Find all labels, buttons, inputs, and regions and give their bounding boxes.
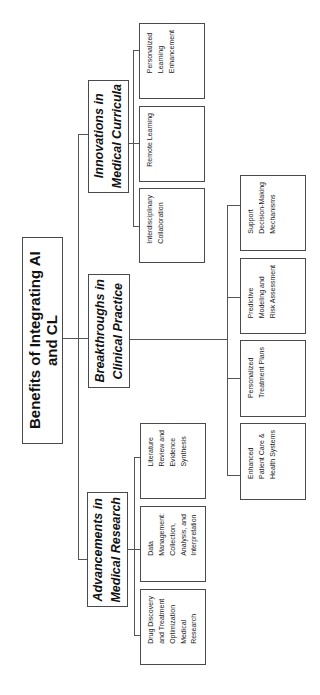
leaf-label: Interdisciplinary Collaboration xyxy=(145,189,167,244)
leaf-label: Personalized Learning Enhancement xyxy=(145,24,178,73)
leaf-predictive-modeling: Predictive Modeling and Risk Assessment xyxy=(240,258,306,334)
branch-label: Breakthroughs in Clinical Practice xyxy=(91,279,127,383)
clinical-stub xyxy=(129,339,227,340)
innovations-connector xyxy=(78,134,88,135)
child-stub xyxy=(227,205,240,206)
advancements-stub xyxy=(127,549,134,550)
leaf-label: Personalized Treatment Plans xyxy=(246,341,268,398)
leaf-data-management: Data Management: Collection, Analysis, a… xyxy=(140,506,206,582)
branch-advancements: Advancements in Medical Research xyxy=(87,492,128,607)
leaf-label: Literature Review and Evidence Synthesis xyxy=(146,424,189,467)
leaf-label: Drug Discovery and Treatment Optimizatio… xyxy=(146,590,200,644)
child-stub xyxy=(227,297,240,298)
branch-label: Innovations in Medical Curricula xyxy=(90,84,126,188)
leaf-literature-review: Literature Review and Evidence Synthesis xyxy=(140,423,206,499)
leaf-remote-learning: Remote Learning xyxy=(139,106,205,182)
innovations-children-connector xyxy=(133,50,134,227)
leaf-personalized-learning: Personalized Learning Enhancement xyxy=(139,23,205,99)
root-connector xyxy=(62,338,88,339)
clinical-children-connector xyxy=(227,205,228,476)
branch-label: Advancements in Medical Research xyxy=(89,497,125,603)
leaf-label: Predictive Modeling and Risk Assessment xyxy=(246,259,279,318)
child-stub xyxy=(227,475,240,476)
child-stub xyxy=(227,378,240,379)
branch-innovations: Innovations in Medical Curricula xyxy=(88,80,129,193)
advancements-children-connector xyxy=(134,457,135,635)
leaf-decision-making: Support Decision-Making Mechanisms xyxy=(240,175,306,251)
leaf-interdisciplinary: Interdisciplinary Collaboration xyxy=(139,188,205,263)
leaf-label: Enhanced Patient Care & Health Systems xyxy=(246,424,279,479)
trunk-connector xyxy=(78,134,79,560)
root-title: Benefits of Integrating AI and CL xyxy=(26,238,60,443)
root-node: Benefits of Integrating AI and CL xyxy=(22,237,63,444)
leaf-patient-care: Enhanced Patient Care & Health Systems xyxy=(240,423,306,500)
leaf-drug-discovery: Drug Discovery and Treatment Optimizatio… xyxy=(140,589,206,665)
leaf-label: Remote Learning xyxy=(145,107,156,167)
leaf-label: Support Decision-Making Mechanisms xyxy=(246,176,279,234)
leaf-label: Data Management: Collection, Analysis, a… xyxy=(146,507,200,556)
leaf-treatment-plans: Personalized Treatment Plans xyxy=(240,340,306,417)
branch-breakthroughs: Breakthroughs in Clinical Practice xyxy=(88,274,130,388)
